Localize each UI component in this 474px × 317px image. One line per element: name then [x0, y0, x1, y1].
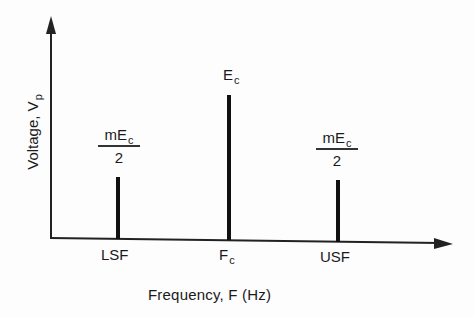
am-spectrum-diagram: Voltage, Vp Ec mEc 2 mEc 2 LSF Fc USF Fr… [0, 0, 474, 317]
tick-label-fc-subscript: c [229, 254, 235, 266]
tick-label-lsf: LSF [101, 247, 129, 262]
tick-label-fc-text: F [219, 246, 228, 263]
lsf-amplitude-numerator: mEc [98, 127, 140, 147]
usf-amplitude-denominator: 2 [316, 150, 358, 168]
x-axis-arrow-icon [434, 238, 453, 249]
y-axis-label: Voltage, Vp [24, 94, 41, 170]
usf-numerator-text: mE [323, 129, 346, 146]
carrier-amplitude-text: E [223, 66, 233, 83]
lsf-amplitude-label: mEc 2 [98, 127, 140, 165]
diagram-graphics [0, 0, 474, 317]
usf-amplitude-numerator: mEc [316, 130, 358, 150]
usf-numerator-subscript: c [346, 137, 352, 149]
y-axis-label-subscript: p [32, 94, 44, 100]
x-axis [50, 238, 440, 243]
usf-amplitude-label: mEc 2 [316, 130, 358, 168]
x-axis-label: Frequency, F (Hz) [148, 286, 271, 303]
carrier-amplitude-label: Ec [223, 67, 240, 82]
lsf-numerator-text: mE [105, 126, 128, 143]
y-axis-label-text: Voltage, V [24, 101, 41, 169]
carrier-amplitude-subscript: c [234, 74, 240, 86]
lsf-amplitude-denominator: 2 [98, 147, 140, 165]
tick-label-fc: Fc [219, 247, 235, 262]
y-axis-arrow-icon [46, 16, 56, 34]
lsf-numerator-subscript: c [128, 134, 134, 146]
tick-label-usf: USF [320, 249, 350, 264]
